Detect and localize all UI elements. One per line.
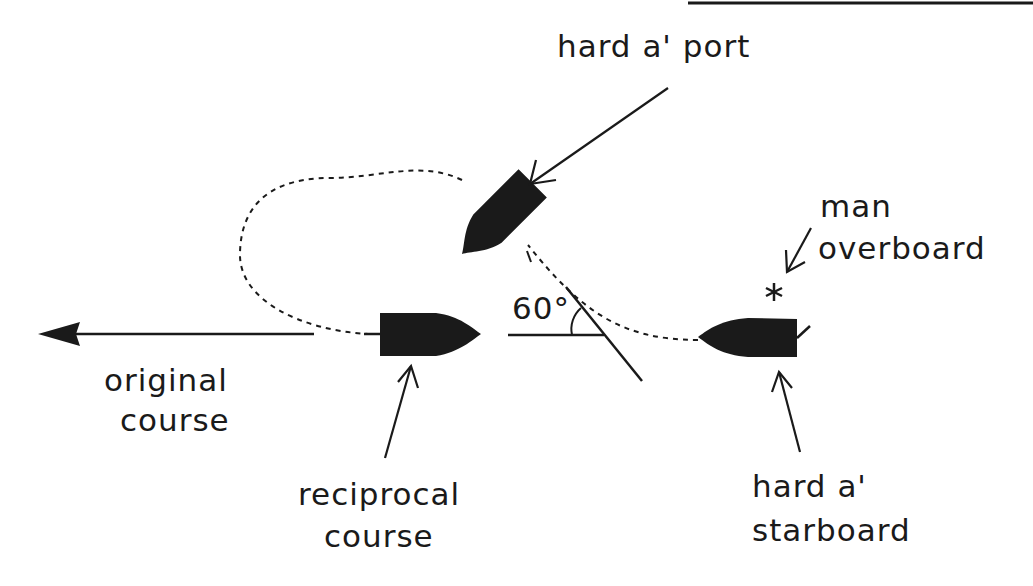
original-course-arrow xyxy=(38,322,314,346)
label-reciprocal-2: course xyxy=(324,518,434,554)
start-boat xyxy=(698,318,810,357)
reciprocal-boat xyxy=(364,313,481,356)
label-angle: 60° xyxy=(512,290,570,326)
label-reciprocal-1: reciprocal xyxy=(298,476,460,512)
label-original-1: original xyxy=(104,362,228,398)
man-overboard-icon xyxy=(766,283,782,301)
turn-path xyxy=(240,171,698,340)
label-hard-port: hard a' port xyxy=(557,28,750,64)
arrow-reciprocal xyxy=(385,366,411,458)
label-hard-starboard-2: starboard xyxy=(752,512,911,548)
label-man: man xyxy=(820,188,892,224)
rudder-mark xyxy=(527,251,531,262)
label-original-2: course xyxy=(120,402,230,438)
label-overboard: overboard xyxy=(818,230,986,266)
arrow-hard-port xyxy=(530,88,668,184)
pointer-arrows xyxy=(385,88,811,458)
label-hard-starboard-1: hard a' xyxy=(752,468,867,504)
